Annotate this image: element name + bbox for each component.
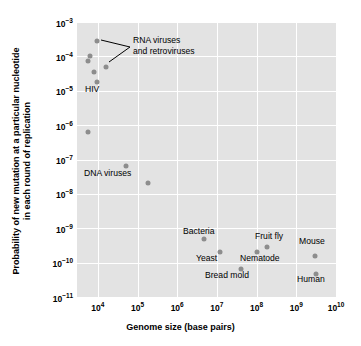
x-axis-tick-label: 105 [131, 302, 144, 312]
data-point [145, 180, 150, 185]
data-point [202, 237, 207, 242]
data-point [91, 70, 96, 75]
annotation-bread-mold: Bread mold [205, 270, 249, 281]
y-axis-title-line2: in each round of replication [22, 102, 32, 220]
y-axis-title: Probability of new mutation at a particu… [11, 26, 33, 296]
annotation-rna-viruses-line1: RNA viruses [133, 35, 180, 45]
data-point [218, 250, 223, 255]
y-axis-tick-label: 10−3 [56, 18, 73, 28]
gridline-horizontal [77, 91, 336, 92]
gridline-horizontal [77, 160, 336, 161]
x-axis-tick-label: 104 [91, 302, 104, 312]
y-axis-tick-label: 10−6 [56, 121, 73, 131]
annotation-bacteria: Bacteria [183, 226, 215, 237]
data-point [103, 65, 108, 70]
x-axis-title: Genome size (base pairs) [0, 322, 361, 332]
annotation-nematode: Nematode [240, 253, 280, 264]
gridline-horizontal [77, 22, 336, 23]
y-axis-tick-label: 10−5 [56, 86, 73, 96]
y-axis-tick-label: 10−4 [56, 52, 73, 62]
y-axis-tick-label: 10−7 [56, 155, 73, 165]
annotation-human: Human [297, 274, 325, 285]
gridline-horizontal [77, 56, 336, 57]
x-axis-tick-label: 108 [250, 302, 263, 312]
x-axis-tick-label: 1010 [328, 302, 345, 312]
mutation-rate-scatter-chart: 10−310−410−510−610−710−810−910−1010−11 1… [0, 0, 361, 346]
y-axis-title-line1: Probability of new mutation at a particu… [11, 47, 21, 274]
x-axis-tick-label: 106 [171, 302, 184, 312]
annotation-yeast: Yeast [196, 253, 217, 264]
y-axis-tick-labels: 10−310−410−510−610−710−810−910−1010−11 [38, 0, 73, 346]
y-axis-tick-label: 10−9 [56, 224, 73, 234]
gridline-horizontal [77, 125, 336, 126]
x-axis-tick-label: 107 [210, 302, 223, 312]
data-point [264, 244, 269, 249]
annotation-rna-viruses: RNA viruses and retroviruses [133, 35, 195, 56]
gridline-horizontal [77, 194, 336, 195]
annotation-fruit-fly: Fruit fly [255, 231, 283, 242]
data-point [86, 58, 91, 63]
y-axis-tick-label: 10−10 [53, 258, 74, 268]
annotation-hiv: HIV [85, 84, 99, 95]
data-point [94, 39, 99, 44]
annotation-rna-viruses-line2: and retroviruses [133, 46, 195, 56]
annotation-dna-viruses: DNA viruses [84, 168, 131, 179]
data-point [312, 253, 317, 258]
x-axis-tick-labels: 1041051061071081091010 [0, 302, 361, 316]
gridline-vertical [336, 22, 337, 297]
y-axis-tick-label: 10−8 [56, 189, 73, 199]
x-axis-tick-label: 109 [290, 302, 303, 312]
annotation-mouse: Mouse [299, 236, 325, 247]
gridline-horizontal [77, 297, 336, 298]
data-point [85, 130, 90, 135]
